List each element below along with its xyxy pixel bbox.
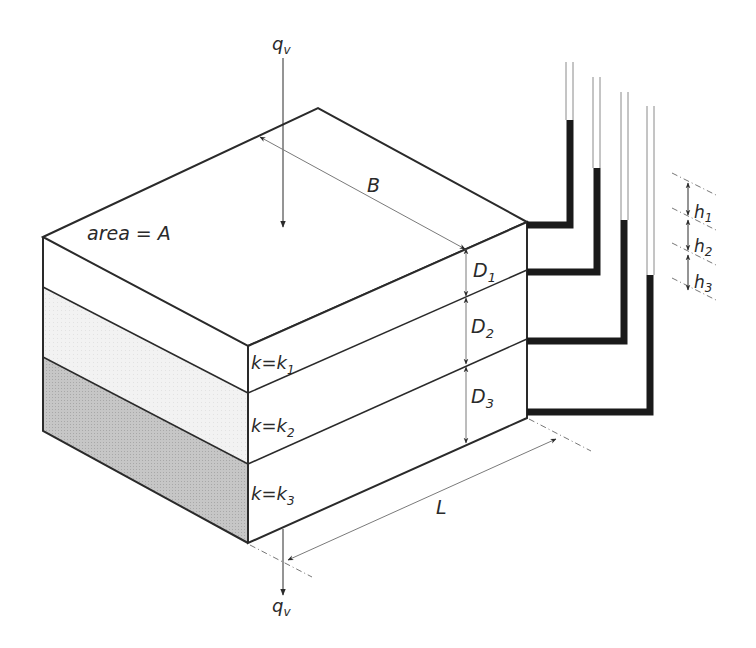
standpipe-4	[527, 106, 654, 412]
standpipe-1	[527, 62, 573, 225]
width-label-B: B	[367, 174, 380, 196]
standpipe-2	[527, 77, 600, 272]
inflow-label: qv	[272, 33, 291, 57]
soil-permeability-diagram: h1 h2 h3 qv area = A B D1 D2 D3 k=k1 k=k…	[0, 0, 756, 648]
length-label-L: L	[436, 496, 447, 518]
standpipes	[527, 62, 654, 412]
h2-label: h2	[694, 236, 712, 259]
outflow-label: qv	[272, 595, 291, 619]
h1-label: h1	[694, 202, 712, 225]
h3-label: h3	[694, 272, 712, 295]
area-label: area = A	[87, 222, 171, 244]
standpipe-3	[527, 92, 628, 341]
